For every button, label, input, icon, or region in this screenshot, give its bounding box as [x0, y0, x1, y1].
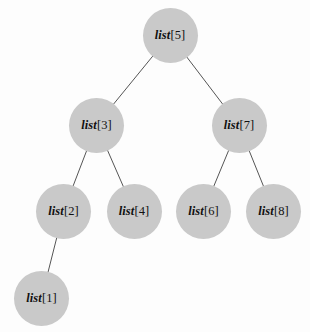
node-label-name: list [155, 27, 171, 41]
tree-edge [48, 237, 57, 273]
node-label-name: list [81, 117, 97, 131]
node-label-index: [6] [204, 203, 219, 217]
tree-node-label: list[3] [81, 118, 112, 131]
tree-node-list5[interactable]: list[5] [143, 8, 198, 63]
node-label-index: [8] [274, 203, 289, 217]
node-label-name: list [188, 203, 204, 217]
tree-edge [186, 56, 223, 104]
node-label-name: list [119, 203, 135, 217]
tree-node-list6[interactable]: list[6] [176, 184, 231, 239]
tree-edge [249, 150, 264, 186]
node-label-name: list [26, 290, 42, 304]
tree-node-label: list[7] [224, 119, 255, 132]
tree-node-list1[interactable]: list[1] [14, 271, 69, 326]
tree-edge [113, 56, 153, 105]
node-label-name: list [224, 118, 240, 132]
node-label-index: [4] [134, 203, 149, 217]
tree-edge [73, 150, 87, 187]
tree-node-list7[interactable]: list[7] [212, 98, 267, 153]
tree-node-list3[interactable]: list[3] [69, 98, 124, 153]
tree-node-label: list[5] [155, 28, 186, 41]
tree-edge [107, 149, 123, 186]
node-label-index: [5] [170, 27, 185, 41]
node-label-name: list [258, 203, 274, 217]
node-label-index: [2] [64, 203, 79, 217]
tree-node-list8[interactable]: list[8] [246, 184, 301, 239]
node-label-name: list [48, 203, 64, 217]
node-label-index: [7] [239, 118, 254, 132]
tree-node-label: list[4] [119, 204, 150, 217]
tree-node-label: list[1] [26, 291, 57, 304]
tree-node-label: list[6] [188, 204, 219, 217]
tree-node-list4[interactable]: list[4] [107, 184, 162, 239]
tree-node-list2[interactable]: list[2] [36, 184, 91, 239]
tree-edge [214, 150, 229, 187]
tree-node-label: list[2] [48, 204, 79, 217]
tree-diagram-canvas: list[5]list[3]list[7]list[2]list[4]list[… [0, 0, 310, 332]
node-label-index: [3] [97, 117, 112, 131]
tree-node-label: list[8] [258, 204, 289, 217]
node-label-index: [1] [42, 290, 57, 304]
